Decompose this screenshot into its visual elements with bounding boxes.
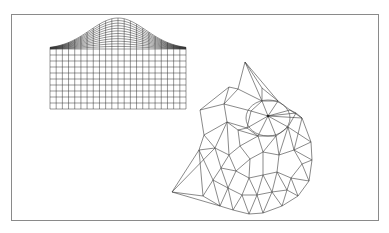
triangulated-mesh: [172, 62, 312, 214]
gaussian-grid-mesh: [50, 18, 186, 109]
mesh-canvas: [0, 0, 389, 233]
